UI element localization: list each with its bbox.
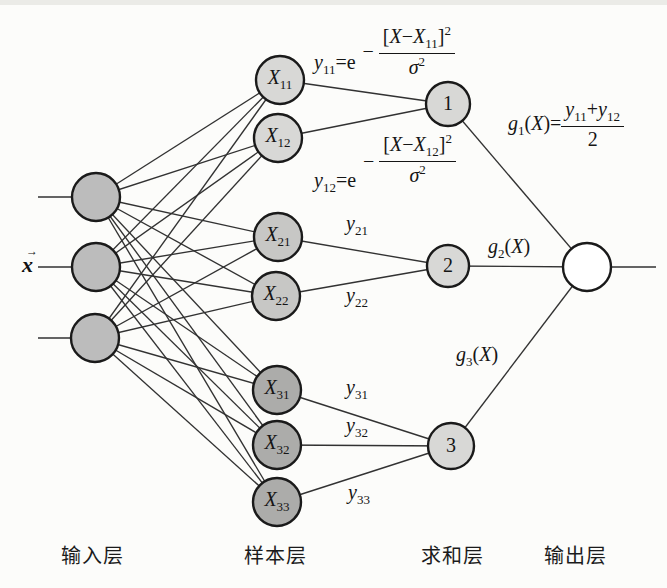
formula-y12-fraction: [X−X12]2 σ2	[379, 132, 456, 186]
label-overlay: →x y11=e − [X−X11]2 σ2 y12=e − [X−X12]2 …	[0, 0, 667, 588]
formula-y12-denominator: σ2	[409, 162, 425, 187]
sample-layer-label: 样本层	[244, 540, 307, 569]
formula-g1-numerator: y11+y12	[561, 98, 624, 127]
formula-g1-lhs: g1(X)=	[508, 112, 561, 139]
formula-y12-numerator: [X−X12]2	[379, 132, 456, 162]
sample-node-label-X22: X22	[263, 283, 288, 307]
formula-y11-denominator: σ2	[409, 54, 425, 79]
edge-label-y31: y31	[346, 377, 368, 401]
vector-arrow-icon: →	[26, 244, 38, 259]
edge-label-g3: g3(X)	[456, 344, 498, 368]
sample-node-label-X33: X33	[264, 489, 289, 513]
edge-label-y32: y32	[346, 415, 368, 439]
formula-y12-lhs: y12=e	[314, 169, 356, 196]
edge-label-y22: y22	[346, 285, 368, 309]
sample-node-label-X11: X11	[268, 67, 293, 91]
edge-label-y21: y21	[346, 213, 368, 237]
formula-y11-lhs: y11=e	[314, 51, 356, 78]
sample-node-label-X21: X21	[265, 224, 290, 248]
pnn-diagram: →x y11=e − [X−X11]2 σ2 y12=e − [X−X12]2 …	[0, 0, 667, 588]
sample-node-label-X32: X32	[264, 432, 289, 456]
formula-g1: g1(X)= y11+y12 2	[508, 98, 624, 151]
sample-node-label-X12: X12	[265, 125, 290, 149]
sum-node-label-2: 2	[443, 255, 453, 275]
formula-g1-fraction: y11+y12 2	[561, 98, 624, 151]
minus-sign: −	[363, 40, 374, 63]
sum-node-label-1: 1	[443, 93, 453, 113]
sum-node-label-3: 3	[446, 435, 456, 455]
edge-label-g2: g2(X)	[488, 236, 530, 260]
formula-y12: y12=e − [X−X12]2 σ2	[314, 132, 456, 196]
formula-y11-numerator: [X−X11]2	[379, 24, 455, 54]
edge-label-y33: y33	[348, 482, 370, 506]
sum-layer-label: 求和层	[421, 540, 484, 569]
formula-g1-denominator: 2	[588, 127, 598, 151]
input-layer-label: 输入层	[61, 540, 124, 569]
minus-sign: −	[363, 150, 374, 173]
formula-y11-fraction: [X−X11]2 σ2	[379, 24, 455, 78]
sample-node-label-X31: X31	[264, 377, 289, 401]
output-layer-label: 输出层	[544, 540, 607, 569]
formula-y11: y11=e − [X−X11]2 σ2	[314, 24, 455, 78]
input-vector-label: →x	[22, 252, 33, 278]
